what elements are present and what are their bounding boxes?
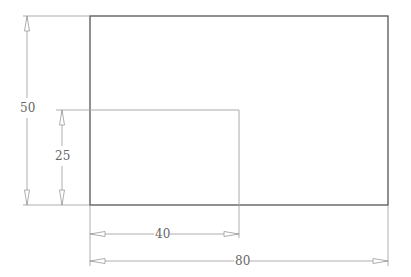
dimension-label-40: 40 <box>155 227 170 241</box>
dimension-label-25: 25 <box>55 149 70 163</box>
extension-lines <box>23 16 388 266</box>
inner-rectangle <box>90 110 239 205</box>
dimension-label-50: 50 <box>20 101 35 115</box>
technical-drawing: 50 25 40 80 <box>0 0 411 277</box>
dimension-label-80: 80 <box>235 254 250 268</box>
